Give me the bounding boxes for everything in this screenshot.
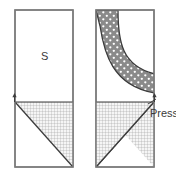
material-label-s: S [41, 51, 48, 62]
diagram-canvas: S Press [0, 0, 176, 180]
press-label: Press [150, 108, 176, 119]
left-panel [12, 10, 73, 167]
diagram-svg [0, 0, 176, 180]
right-panel [96, 10, 157, 167]
